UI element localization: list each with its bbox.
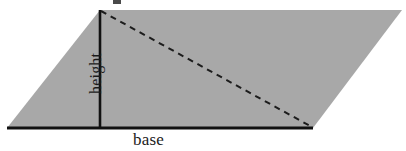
- height-label: height: [88, 53, 104, 94]
- parallelogram-diagram-svg: [0, 0, 406, 151]
- base-label: base: [133, 131, 164, 148]
- parallelogram-shape: [7, 10, 402, 128]
- top-edge-artifact-mark: [113, 0, 121, 4]
- geometry-figure: base height: [0, 0, 406, 151]
